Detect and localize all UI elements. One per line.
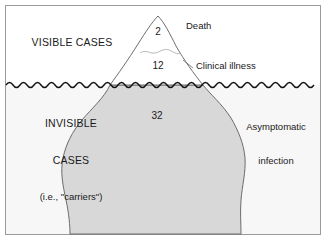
clinical-illness-value: 12: [145, 60, 171, 72]
invisible-cases-line1: INVISIBLE: [12, 117, 130, 129]
asymptomatic-infection-value: 32: [143, 110, 171, 122]
invisible-cases-carriers-note: (i.e., "carriers"): [12, 191, 130, 202]
clinical-illness-label: Clinical illness: [196, 60, 256, 71]
visible-cases-label: VISIBLE CASES: [16, 36, 128, 48]
invisible-cases-line2: CASES: [12, 154, 130, 166]
asymptomatic-infection-label: Asymptomatic infection: [230, 99, 322, 189]
invisible-cases-label: INVISIBLE CASES (i.e., "carriers"): [12, 92, 130, 227]
iceberg-diagram-page: VISIBLE CASES INVISIBLE CASES (i.e., "ca…: [0, 0, 327, 241]
asymptomatic-infection-line1: Asymptomatic: [230, 121, 322, 132]
asymptomatic-infection-line2: infection: [230, 155, 322, 166]
death-value: 2: [146, 26, 170, 38]
death-label: Death: [186, 20, 211, 31]
